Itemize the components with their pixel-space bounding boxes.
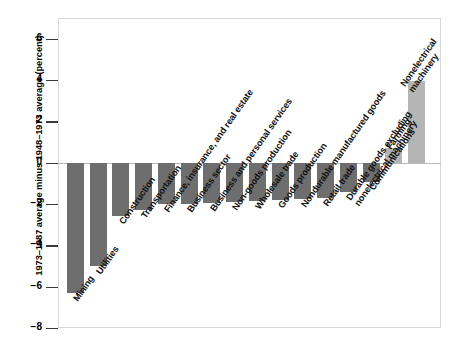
bar <box>90 163 107 266</box>
y-tick-mark <box>46 121 58 122</box>
y-tick-mark <box>46 245 58 246</box>
y-tick-mark <box>46 204 58 205</box>
bar <box>67 163 84 293</box>
y-tick-label: −6 <box>31 280 42 291</box>
y-tick-label: −2 <box>31 197 42 208</box>
y-tick-mark <box>46 39 58 40</box>
y-tick-mark <box>46 80 58 81</box>
y-tick-mark <box>46 163 58 164</box>
bar-chart: 1973–1987 average minus 1948–1973 averag… <box>0 0 450 343</box>
y-tick-mark <box>46 287 58 288</box>
y-tick-label: −4 <box>31 238 42 249</box>
y-tick-mark <box>46 328 58 329</box>
y-tick-label: −8 <box>31 321 42 332</box>
y-tick-label: 4 <box>36 73 42 84</box>
y-tick-label: 0 <box>36 156 42 167</box>
y-tick-label: 6 <box>36 32 42 43</box>
y-tick-label: 2 <box>36 114 42 125</box>
